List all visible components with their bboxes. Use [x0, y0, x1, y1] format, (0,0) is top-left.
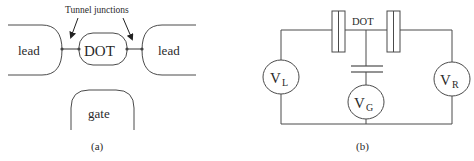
tunnel-junctions-label: Tunnel junctions: [65, 5, 129, 15]
junction-dot-icon: [60, 47, 63, 50]
arrow-left-junction-icon: [71, 18, 78, 37]
svg-text:V: V: [440, 72, 451, 88]
voltage-source-left: V L: [263, 60, 299, 94]
panel-a-device-schematic: Tunnel junctions lead lead DOT gate (a): [8, 5, 196, 153]
gate-capacitor-symbol: [351, 66, 383, 72]
top-right-wire: [400, 30, 452, 62]
svg-text:R: R: [452, 79, 459, 90]
junction-dot-icon: [140, 47, 143, 50]
left-tunnel-junction-symbol: [332, 11, 345, 52]
gate-label: gate: [88, 106, 110, 121]
right-tunnel-junction-symbol: [387, 11, 400, 52]
left-lead-label: lead: [18, 43, 40, 58]
junction-dot-icon: [125, 47, 128, 50]
dot-label: DOT: [84, 43, 115, 59]
junction-dot-icon: [77, 47, 80, 50]
svg-text:L: L: [282, 77, 288, 88]
voltage-source-gate: V G: [348, 85, 384, 119]
svg-text:V: V: [354, 95, 365, 111]
voltage-source-right: V R: [434, 62, 470, 96]
top-left-wire: [281, 30, 332, 60]
svg-text:V: V: [270, 70, 281, 86]
svg-text:G: G: [366, 102, 373, 113]
caption-b: (b): [356, 140, 369, 153]
right-lead-label: lead: [158, 43, 180, 58]
arrow-right-junction-icon: [123, 18, 132, 39]
panel-b-circuit: DOT V L V G V R (b): [263, 11, 470, 153]
caption-a: (a): [91, 140, 104, 153]
figure: Tunnel junctions lead lead DOT gate (a): [0, 0, 474, 161]
dot-node-label: DOT: [352, 16, 374, 27]
